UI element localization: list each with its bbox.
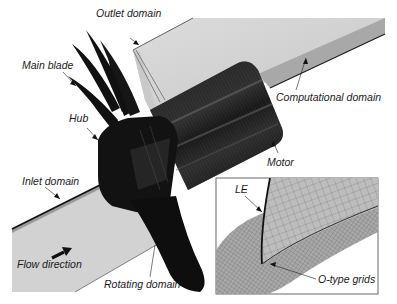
label-flow-direction: Flow direction [17, 259, 82, 270]
label-inlet-domain: Inlet domain [22, 176, 79, 187]
label-outlet-domain: Outlet domain [96, 8, 161, 19]
label-motor: Motor [267, 157, 294, 168]
label-computational-domain: Computational domain [276, 92, 381, 103]
label-le: LE [235, 184, 248, 195]
label-o-type-grids: O-type grids [318, 274, 375, 285]
label-hub: Hub [69, 113, 88, 124]
label-main-blade: Main blade [22, 60, 73, 71]
cfd-mesh-diagram: Outlet domain Main blade Hub Computation… [0, 0, 397, 304]
label-rotating-domain: Rotating domain [104, 279, 180, 290]
